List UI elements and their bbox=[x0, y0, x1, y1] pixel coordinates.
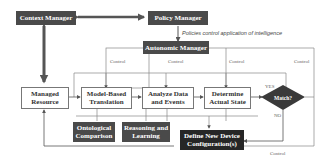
managed-resource-node: Managed Resource bbox=[21, 87, 69, 109]
reasoning-learning-node: Reasoning and Learning bbox=[122, 122, 170, 142]
control-label-bottom: Control bbox=[270, 151, 285, 156]
context-manager-node: Context Manager bbox=[16, 11, 76, 25]
ontological-comparison-node: Ontological Comparison bbox=[73, 122, 115, 142]
control-label-1: Control bbox=[110, 59, 125, 64]
policy-manager-node: Policy Manager bbox=[148, 11, 208, 25]
define-new-config-node: Define New Device Configuration(s) bbox=[180, 130, 244, 150]
autonomic-manager-node: Autonomic Manager bbox=[143, 41, 209, 54]
yes-label: YES bbox=[265, 84, 274, 89]
determine-actual-state-node: Determine Actual State bbox=[204, 87, 251, 109]
policy-note: Policies control application of intellig… bbox=[182, 30, 282, 36]
control-label-3: Control bbox=[229, 59, 244, 64]
analyze-data-events-node: Analyze Data and Events bbox=[142, 87, 194, 109]
control-label-2: Control bbox=[168, 59, 183, 64]
no-label: NO bbox=[274, 113, 281, 118]
control-label-4: Control bbox=[294, 59, 309, 64]
model-based-translation-node: Model-Based Translation bbox=[81, 87, 132, 109]
